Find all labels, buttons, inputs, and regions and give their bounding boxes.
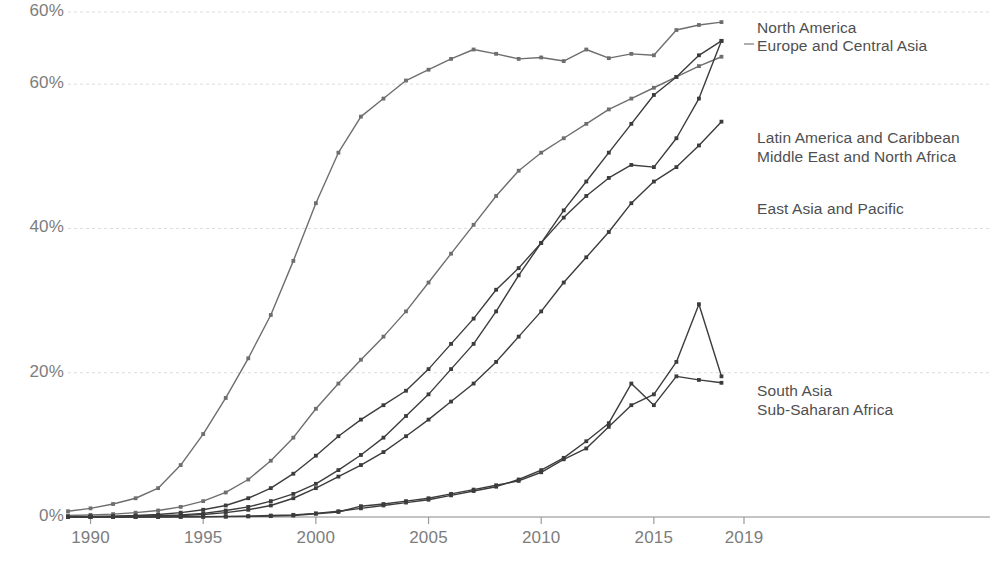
- x-axis-tick-label: 2000: [281, 528, 351, 548]
- data-point-marker: [720, 374, 724, 378]
- data-point-marker: [584, 122, 588, 126]
- data-point-marker: [607, 176, 611, 180]
- data-point-marker: [201, 432, 205, 436]
- data-point-marker: [156, 486, 160, 490]
- data-point-marker: [697, 97, 701, 101]
- data-point-marker: [427, 281, 431, 285]
- data-point-marker: [404, 309, 408, 313]
- series-line: [68, 304, 721, 517]
- x-axis-tick-label: 2010: [506, 528, 576, 548]
- data-point-marker: [404, 389, 408, 393]
- data-point-marker: [179, 515, 183, 519]
- data-point-marker: [517, 169, 521, 173]
- data-point-marker: [246, 496, 250, 500]
- data-point-marker: [269, 486, 273, 490]
- data-point-marker: [697, 144, 701, 148]
- data-point-marker: [404, 434, 408, 438]
- data-point-marker: [201, 508, 205, 512]
- series-north-america: [66, 20, 723, 513]
- data-point-marker: [652, 392, 656, 396]
- data-point-marker: [246, 356, 250, 360]
- data-point-marker: [359, 358, 363, 362]
- line-chart-plot: [0, 0, 999, 574]
- series-line: [68, 22, 721, 511]
- data-point-marker: [224, 504, 228, 508]
- data-point-marker: [359, 506, 363, 510]
- data-point-marker: [382, 504, 386, 508]
- data-point-marker: [427, 498, 431, 502]
- data-point-marker: [652, 93, 656, 97]
- data-point-marker: [629, 122, 633, 126]
- data-point-marker: [134, 496, 138, 500]
- data-point-marker: [720, 120, 724, 124]
- data-point-marker: [472, 382, 476, 386]
- data-point-marker: [89, 506, 93, 510]
- data-point-marker: [224, 491, 228, 495]
- data-point-marker: [449, 57, 453, 61]
- data-point-marker: [224, 511, 228, 515]
- data-point-marker: [539, 309, 543, 313]
- data-point-marker: [652, 86, 656, 90]
- data-point-marker: [201, 499, 205, 503]
- data-point-marker: [675, 165, 679, 169]
- series-europe-and-central-asia: [66, 55, 723, 518]
- data-point-marker: [562, 281, 566, 285]
- data-point-marker: [337, 434, 341, 438]
- data-point-marker: [629, 163, 633, 167]
- data-point-marker: [111, 515, 115, 519]
- data-point-marker: [291, 259, 295, 263]
- data-point-marker: [494, 485, 498, 489]
- data-point-marker: [629, 403, 633, 407]
- data-point-marker: [472, 342, 476, 346]
- data-point-marker: [66, 509, 70, 513]
- x-axis-tick-label: 1990: [56, 528, 126, 548]
- data-point-marker: [427, 367, 431, 371]
- data-point-marker: [449, 367, 453, 371]
- data-point-marker: [359, 453, 363, 457]
- data-point-marker: [652, 165, 656, 169]
- y-axis-tick-label: 0%: [0, 506, 64, 526]
- data-point-marker: [629, 52, 633, 56]
- data-point-marker: [494, 309, 498, 313]
- data-point-marker: [404, 501, 408, 505]
- series-south-asia: [66, 302, 723, 519]
- data-point-marker: [449, 252, 453, 256]
- data-point-marker: [382, 403, 386, 407]
- data-point-marker: [494, 288, 498, 292]
- data-point-marker: [652, 180, 656, 184]
- data-point-marker: [629, 382, 633, 386]
- data-point-marker: [539, 468, 543, 472]
- chart-container: 0%20%40%60%60% 1990199520002005201020152…: [0, 0, 999, 574]
- data-point-marker: [224, 515, 228, 519]
- data-point-marker: [720, 381, 724, 385]
- data-point-marker: [156, 515, 160, 519]
- data-point-marker: [697, 64, 701, 68]
- series-label: Middle East and North Africa: [757, 147, 956, 167]
- x-axis-ticks: [91, 517, 744, 524]
- data-point-marker: [359, 418, 363, 422]
- data-point-marker: [607, 107, 611, 111]
- data-point-marker: [584, 439, 588, 443]
- data-point-marker: [359, 463, 363, 467]
- data-point-marker: [337, 382, 341, 386]
- x-axis-tick-label: 1995: [168, 528, 238, 548]
- data-point-marker: [246, 508, 250, 512]
- data-point-marker: [337, 468, 341, 472]
- data-point-marker: [246, 514, 250, 518]
- data-point-marker: [675, 136, 679, 140]
- y-axis-tick-label: 20%: [0, 362, 64, 382]
- data-point-marker: [246, 478, 250, 482]
- data-point-marker: [291, 496, 295, 500]
- data-point-marker: [539, 56, 543, 60]
- data-point-marker: [89, 515, 93, 519]
- series-label: Sub-Saharan Africa: [757, 400, 893, 420]
- data-point-marker: [382, 450, 386, 454]
- data-point-marker: [156, 509, 160, 513]
- series-label: South Asia: [757, 381, 832, 401]
- series-label: Latin America and Caribbean: [757, 128, 960, 148]
- data-point-marker: [697, 378, 701, 382]
- data-point-marker: [449, 342, 453, 346]
- data-point-marker: [539, 241, 543, 245]
- data-point-marker: [720, 20, 724, 24]
- data-point-marker: [607, 56, 611, 60]
